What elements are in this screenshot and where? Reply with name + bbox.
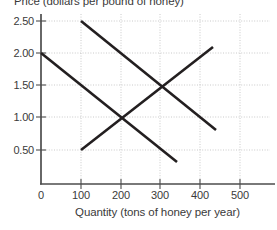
y-tick-label-200: 2.00: [0, 47, 34, 59]
x-tick-label-0: 0: [21, 189, 61, 201]
x-tick-label-300: 300: [140, 189, 180, 201]
x-tick-label-400: 400: [180, 189, 220, 201]
x-axis-label: Quantity (tons of honey per year): [0, 206, 277, 218]
series-demand-shifted: [81, 21, 216, 130]
x-tick-label-100: 100: [61, 189, 101, 201]
axis-lines: [40, 14, 275, 185]
chart-figure: Price (dollars per pound of honey): [0, 0, 277, 230]
series-demand-original: [41, 53, 177, 162]
x-tick-label-200: 200: [101, 189, 141, 201]
y-tick-label-100: 1.00: [0, 111, 34, 123]
horizontal-gridlines: [41, 21, 270, 150]
y-tick-label-150: 1.50: [0, 79, 34, 91]
y-tick-label-250: 2.50: [0, 15, 34, 27]
x-tick-label-500: 500: [220, 189, 260, 201]
series-supply: [81, 47, 213, 150]
y-tick-label-050: 0.50: [0, 144, 34, 156]
data-series: [41, 21, 216, 162]
